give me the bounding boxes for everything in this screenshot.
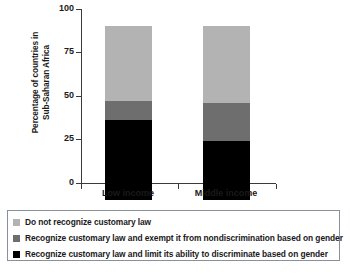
legend-swatch-mid-gray-icon: [13, 235, 20, 242]
y-axis-line: [81, 9, 82, 184]
bar-segment-middle-income-exempt[interactable]: [203, 103, 250, 141]
x-category-label-low-income: Low income: [80, 188, 176, 198]
legend-swatch-black-icon: [13, 251, 20, 258]
legend-item-exempt[interactable]: Recognize customary law and exempt it fr…: [13, 231, 343, 245]
legend-label-exempt: Recognize customary law and exempt it fr…: [25, 233, 343, 243]
y-tick-label-25: 25: [48, 134, 74, 143]
stacked-bar-chart: Percentage of countries in Sub-Saharan A…: [0, 0, 350, 275]
y-tick-label-75: 75: [48, 47, 74, 56]
legend-item-do-not-recognize[interactable]: Do not recognize customary law: [13, 215, 151, 229]
bar-segment-low-income-none[interactable]: [105, 26, 152, 101]
legend-item-limit[interactable]: Recognize customary law and limit its ab…: [13, 247, 328, 261]
x-category-label-middle-income: Middle income: [178, 188, 274, 198]
legend-label-do-not-recognize: Do not recognize customary law: [25, 217, 151, 227]
y-tick-label-50: 50: [48, 91, 74, 100]
y-tick-label-0: 0: [48, 178, 74, 187]
bar-middle-income[interactable]: [203, 26, 250, 200]
y-axis-tick-labels: 100 75 50 25 0: [48, 0, 74, 200]
plot-area: Percentage of countries in Sub-Saharan A…: [0, 0, 350, 200]
y-axis-title-line-1: Percentage of countries in: [30, 0, 41, 170]
legend-swatch-light-gray-icon: [13, 219, 20, 226]
bar-segment-middle-income-none[interactable]: [203, 26, 250, 103]
y-tick-label-100: 100: [48, 4, 74, 13]
legend: Do not recognize customary law Recognize…: [7, 210, 340, 261]
x-tick-mark-right: [276, 184, 277, 189]
bar-segment-low-income-exempt[interactable]: [105, 101, 152, 120]
legend-label-limit: Recognize customary law and limit its ab…: [25, 249, 328, 259]
bar-low-income[interactable]: [105, 26, 152, 200]
